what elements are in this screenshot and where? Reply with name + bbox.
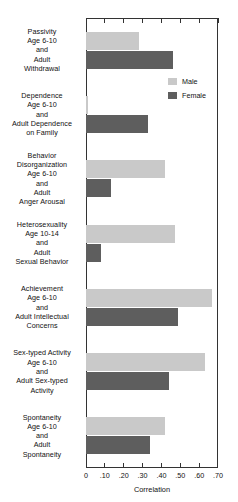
category-label-line: Adult Dependence: [0, 119, 84, 128]
bar-female: [86, 115, 148, 133]
category-label-line: Age 6-10: [0, 422, 84, 431]
category-label-line: and: [0, 179, 84, 188]
category-label-line: Adult: [0, 440, 84, 449]
category-label-line: Adult: [0, 248, 84, 257]
x-tick-bottom: [199, 463, 200, 468]
category-label-line: Concerns: [0, 321, 84, 330]
category-label-line: and: [0, 367, 84, 376]
x-tick-top: [123, 18, 124, 23]
category-label-line: Achievement: [0, 284, 84, 293]
category-label-line: Anger Arousal: [0, 197, 84, 206]
x-tick-top: [218, 18, 219, 23]
legend: Male Female: [168, 74, 206, 102]
x-tick-top: [161, 18, 162, 23]
category-label-line: Heterosexuality: [0, 220, 84, 229]
x-tick-bottom: [180, 463, 181, 468]
category-label-line: and: [0, 45, 84, 54]
correlation-bar-chart: PassivityAge 6-10andAdultWithdrawalDepen…: [0, 0, 238, 502]
legend-swatch-male-icon: [168, 78, 177, 85]
category-label: BehaviorDisorganizationAge 6-10andAdultA…: [0, 151, 84, 207]
legend-swatch-female-icon: [168, 92, 177, 99]
bar-female: [86, 372, 169, 390]
legend-entry-male: Male: [168, 74, 206, 88]
category-label-line: Age 6-10: [0, 293, 84, 302]
category-label-line: Sex-typed Activity: [0, 348, 84, 357]
category-label-line: Age 6-10: [0, 358, 84, 367]
bar-male: [86, 160, 165, 178]
x-tick-bottom: [161, 463, 162, 468]
category-label-line: Disorganization: [0, 160, 84, 169]
category-label-line: Age 6-10: [0, 100, 84, 109]
bar-male: [86, 417, 165, 435]
x-axis-title: Correlation: [86, 485, 218, 494]
category-label-line: Passivity: [0, 27, 84, 36]
category-label-line: Age 6-10: [0, 36, 84, 45]
category-label: DependenceAge 6-10andAdult Dependenceon …: [0, 91, 84, 137]
bar-male: [86, 289, 212, 307]
category-label-line: Behavior: [0, 151, 84, 160]
bar-female: [86, 308, 178, 326]
bar-female: [86, 436, 150, 454]
bar-female: [86, 244, 101, 262]
category-label-line: Activity: [0, 386, 84, 395]
category-label-line: Adult Intellectual: [0, 312, 84, 321]
bar-female: [86, 51, 173, 69]
category-label-line: Dependence: [0, 91, 84, 100]
category-label: SpontaneityAge 6-10andAdultSpontaneity: [0, 413, 84, 459]
category-label-line: Withdrawal: [0, 64, 84, 73]
category-label-line: Adult: [0, 188, 84, 197]
bar-female: [86, 179, 111, 197]
category-label-line: Age 10-14: [0, 229, 84, 238]
x-tick-top: [142, 18, 143, 23]
category-label: PassivityAge 6-10andAdultWithdrawal: [0, 27, 84, 73]
bar-male: [86, 225, 175, 243]
category-label-line: and: [0, 110, 84, 119]
x-tick-bottom: [142, 463, 143, 468]
x-tick-top: [104, 18, 105, 23]
x-tick-top: [199, 18, 200, 23]
bar-male: [86, 353, 205, 371]
x-tick-label: .70: [207, 471, 229, 480]
category-label: HeterosexualityAge 10-14andAdultSexual B…: [0, 220, 84, 266]
category-label-line: Spontaneity: [0, 450, 84, 459]
category-label: Sex-typed ActivityAge 6-10andAdult Sex-t…: [0, 348, 84, 394]
x-tick-top: [180, 18, 181, 23]
category-label-column: PassivityAge 6-10andAdultWithdrawalDepen…: [0, 0, 84, 502]
legend-entry-female: Female: [168, 88, 206, 102]
category-label-line: and: [0, 238, 84, 247]
bar-male: [86, 32, 139, 50]
category-label-line: on Family: [0, 128, 84, 137]
x-tick-bottom: [104, 463, 105, 468]
category-label-line: Age 6-10: [0, 169, 84, 178]
bar-male: [86, 96, 88, 114]
category-label-line: and: [0, 431, 84, 440]
category-label-line: and: [0, 303, 84, 312]
category-label-line: Adult Sex-typed: [0, 376, 84, 385]
legend-label-female: Female: [182, 91, 206, 100]
legend-label-male: Male: [182, 77, 198, 86]
x-tick-bottom: [123, 463, 124, 468]
category-label-line: Spontaneity: [0, 413, 84, 422]
category-label-line: Sexual Behavior: [0, 257, 84, 266]
category-label: AchievementAge 6-10andAdult Intellectual…: [0, 284, 84, 330]
category-label-line: Adult: [0, 55, 84, 64]
